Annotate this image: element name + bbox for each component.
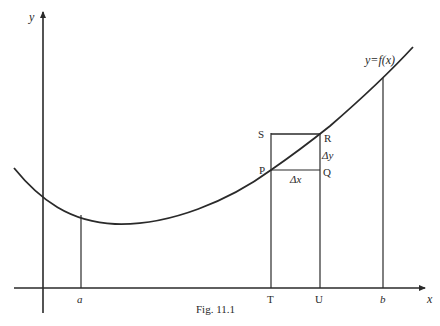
y-axis-label: y [28, 10, 35, 24]
delta-y-label: Δy [321, 149, 333, 161]
delta-x-label: Δx [289, 173, 301, 185]
point-label-S: S [258, 128, 264, 140]
curve-label: y=f(x) [364, 53, 395, 67]
curve-fx [14, 47, 413, 224]
point-label-Q: Q [323, 166, 331, 178]
x-axis-label: x [426, 292, 433, 306]
area-under-curve-diagram: y x y=f(x) a T U b S R P Q Δy Δx Fig. 11… [0, 0, 440, 326]
tick-label-a: a [77, 293, 83, 305]
point-label-P: P [259, 164, 265, 176]
figure-caption: Fig. 11.1 [196, 303, 235, 315]
tick-label-T: T [267, 293, 274, 305]
tick-label-U: U [315, 293, 323, 305]
point-label-R: R [324, 132, 332, 144]
tick-label-b: b [380, 293, 386, 305]
